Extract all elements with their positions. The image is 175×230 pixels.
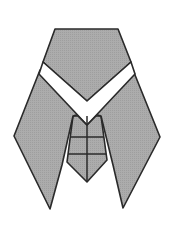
cicada-diagram <box>0 0 175 230</box>
